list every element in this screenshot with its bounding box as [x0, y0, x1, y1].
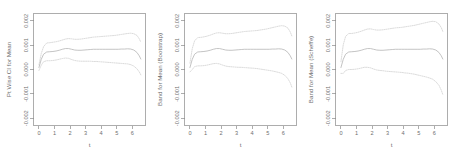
y-tick-label: -0.002	[23, 110, 29, 126]
x-tick-label: 2	[219, 130, 222, 136]
plot-canvas-1: 0123456t-0.002-0.0010.0000.0010.002Band …	[151, 0, 302, 162]
x-axis-title: t	[391, 141, 393, 148]
plot-canvas-2: 0123456t-0.002-0.0010.0000.0010.002Band …	[302, 0, 453, 162]
x-tick-label: 5	[266, 130, 269, 136]
x-tick-label: 4	[402, 130, 405, 136]
y-axis-title: Pt Wise CI for Mean	[5, 41, 12, 97]
x-tick-label: 6	[433, 130, 436, 136]
x-tick-label: 4	[251, 130, 254, 136]
confidence-band-curve	[190, 26, 292, 64]
y-tick-label: 0.001	[174, 38, 180, 52]
y-tick-label: -0.002	[325, 110, 331, 126]
x-tick-label: 1	[204, 130, 207, 136]
x-tick-label: 0	[37, 130, 40, 136]
x-tick-label: 0	[339, 130, 342, 136]
confidence-band-curve	[341, 21, 443, 61]
y-axis-title: Band for Mean (Scheffe)	[307, 36, 314, 103]
x-tick-label: 1	[53, 130, 56, 136]
multi-panel-figure: 0123456t-0.002-0.0010.0000.0010.002Pt Wi…	[0, 0, 453, 162]
y-tick-label: 0.001	[23, 38, 29, 52]
y-tick-label: 0.002	[325, 14, 331, 28]
y-tick-label: 0.002	[174, 14, 180, 28]
x-tick-label: 6	[282, 130, 285, 136]
x-axis-title: t	[89, 141, 91, 148]
x-tick-label: 1	[355, 130, 358, 136]
x-tick-label: 0	[188, 130, 191, 136]
mean-curve	[39, 49, 141, 68]
y-tick-label: 0.000	[174, 63, 180, 77]
x-tick-label: 3	[386, 130, 389, 136]
plot-frame	[185, 14, 297, 126]
y-tick-label: 0.001	[325, 38, 331, 52]
x-tick-label: 6	[131, 130, 134, 136]
plot-canvas-0: 0123456t-0.002-0.0010.0000.0010.002Pt Wi…	[0, 0, 151, 162]
panel-scheffe-band: 0123456t-0.002-0.0010.0000.0010.002Band …	[302, 0, 453, 162]
y-tick-label: 0.002	[23, 14, 29, 28]
x-tick-label: 2	[370, 130, 373, 136]
y-tick-label: 0.000	[325, 63, 331, 77]
x-axis-title: t	[240, 141, 242, 148]
plot-frame	[34, 14, 146, 126]
y-tick-label: -0.001	[174, 86, 180, 102]
panel-pt-wise-ci: 0123456t-0.002-0.0010.0000.0010.002Pt Wi…	[0, 0, 151, 162]
y-tick-label: 0.000	[23, 63, 29, 77]
panel-bootstrap-band: 0123456t-0.002-0.0010.0000.0010.002Band …	[151, 0, 302, 162]
confidence-band-curve	[341, 67, 443, 94]
y-tick-label: -0.001	[23, 86, 29, 102]
x-tick-label: 3	[84, 130, 87, 136]
x-tick-label: 5	[417, 130, 420, 136]
confidence-band-curve	[39, 58, 141, 75]
y-tick-label: -0.002	[174, 110, 180, 126]
x-tick-label: 5	[115, 130, 118, 136]
y-axis-title: Band for Mean (Bootstrap)	[156, 33, 163, 106]
mean-curve	[190, 49, 292, 68]
x-tick-label: 2	[68, 130, 71, 136]
x-tick-label: 3	[235, 130, 238, 136]
y-tick-label: -0.001	[325, 86, 331, 102]
mean-curve	[341, 49, 443, 68]
confidence-band-curve	[190, 63, 292, 87]
x-tick-label: 4	[100, 130, 103, 136]
